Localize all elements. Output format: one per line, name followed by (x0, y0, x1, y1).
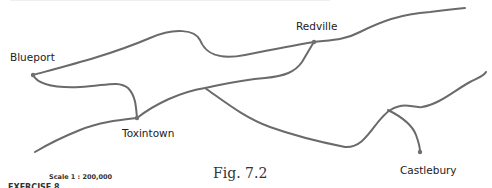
exercise-heading-cut: EXERCISE 8 (8, 183, 60, 188)
town-dot-blueport (31, 73, 35, 77)
road-blueport-toxintown (33, 75, 137, 118)
town-label-toxintown: Toxintown (122, 127, 174, 139)
town-label-castlebury: Castlebury (400, 164, 457, 176)
town-label-redville: Redville (296, 20, 337, 32)
road-blueport-redville-north (33, 8, 465, 75)
road-castlebury-spur (388, 110, 420, 152)
road-toxintown-redville (137, 42, 314, 118)
map-scale: Scale 1 : 200,000 (49, 173, 112, 181)
figure-caption: Fig. 7.2 (213, 165, 267, 181)
road-map-figure: Blueport Redville Toxintown Castlebury S… (0, 0, 492, 188)
town-dot-toxintown (135, 116, 139, 120)
town-label-blueport: Blueport (10, 51, 55, 63)
road-network (0, 0, 492, 188)
town-dot-redville (312, 40, 316, 44)
road-junction-east (205, 72, 486, 147)
town-dot-castlebury (418, 150, 422, 154)
